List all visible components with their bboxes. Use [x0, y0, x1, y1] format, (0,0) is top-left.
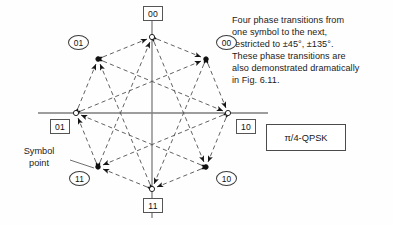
symbol-point-callout: Symbol point [8, 146, 70, 169]
symbol-point-marker [149, 186, 154, 191]
point-label-p-upper-right: 00 [216, 35, 237, 50]
transition-arrow [208, 64, 226, 108]
symbol-point-marker [96, 165, 100, 169]
point-label-text: 10 [222, 174, 232, 184]
annotation-line-2: one symbol to the next, [232, 26, 392, 38]
transition-arrow [157, 39, 201, 57]
transition-arrow [157, 169, 201, 187]
point-label-p-upper-left: 01 [68, 35, 89, 50]
transition-arrow [103, 115, 223, 165]
point-label-p-lower-right: 10 [216, 171, 237, 186]
point-label-text: 00 [148, 9, 158, 19]
point-label-text: 10 [241, 122, 251, 132]
transition-arrow [100, 64, 150, 184]
transition-arrow [78, 118, 96, 162]
symbol-point-marker [96, 57, 100, 61]
transition-arrow [81, 115, 201, 165]
transition-arrow [81, 61, 201, 111]
annotation-text: Four phase transitions from one symbol t… [232, 14, 392, 87]
point-label-text: 11 [75, 174, 84, 184]
symbol-point-callout-line-1: Symbol [8, 146, 70, 158]
symbol-point-marker [73, 110, 78, 115]
point-label-text: 01 [74, 38, 84, 48]
transition-arrow [154, 64, 204, 184]
annotation-line-4: These phase transitions are [232, 50, 392, 62]
figure-page: Four phase transitions from one symbol t… [0, 0, 393, 225]
point-label-p-right: 10 [236, 119, 256, 134]
point-label-text: 11 [148, 201, 158, 211]
symbol-point-leader-line [70, 160, 94, 168]
point-label-p-left: 01 [50, 119, 70, 134]
point-label-p-bottom: 11 [143, 198, 163, 213]
annotation-line-5: also demonstrated dramatically [232, 62, 392, 74]
symbol-point-marker [225, 110, 230, 115]
symbol-point-marker [204, 165, 208, 169]
symbol-point-marker [149, 34, 154, 39]
transition-arrow [154, 42, 204, 162]
modulation-label: π/4-QPSK [284, 133, 327, 143]
transition-arrow [208, 118, 226, 162]
symbol-point-callout-line-2: point [8, 158, 70, 170]
transition-arrow [103, 39, 147, 57]
symbol-point-marker [204, 57, 208, 61]
transition-arrow [100, 42, 150, 162]
point-label-text: 00 [222, 38, 232, 48]
transition-arrow [103, 169, 147, 187]
transition-arrow [103, 61, 223, 111]
point-label-text: 01 [55, 122, 65, 132]
modulation-label-box: π/4-QPSK [266, 124, 346, 151]
annotation-line-1: Four phase transitions from [232, 14, 392, 26]
point-label-p-top: 00 [143, 6, 163, 21]
annotation-line-3: restricted to ±45°, ±135°. [232, 38, 392, 50]
transition-arrow [78, 64, 96, 108]
annotation-line-6: in Fig. 6.11. [232, 74, 392, 86]
point-label-p-lower-left: 11 [69, 171, 90, 186]
